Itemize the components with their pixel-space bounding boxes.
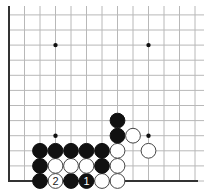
white-stone — [64, 159, 79, 174]
white-stone-circle — [79, 159, 94, 174]
black-stone: 1 — [79, 174, 94, 189]
white-stone-circle — [110, 174, 125, 189]
black-stone-circle — [110, 113, 125, 128]
white-stone: 2 — [48, 174, 63, 189]
black-stone — [95, 159, 110, 174]
black-stone — [110, 128, 125, 143]
white-stone — [110, 159, 125, 174]
star-point-icon — [146, 43, 150, 47]
black-stone-circle — [95, 159, 110, 174]
white-stone-circle — [126, 128, 141, 143]
black-stone — [79, 143, 94, 158]
star-point-icon — [146, 134, 150, 138]
white-stone — [110, 174, 125, 189]
star-point-icon — [53, 134, 57, 138]
black-stone-circle — [33, 174, 48, 189]
white-stone-circle — [110, 159, 125, 174]
white-stone — [126, 128, 141, 143]
black-stone — [110, 113, 125, 128]
move-number-label: 2 — [52, 175, 58, 187]
white-stone-circle — [64, 159, 79, 174]
black-stone — [33, 143, 48, 158]
black-stone-circle — [33, 159, 48, 174]
white-stone-circle — [95, 174, 110, 189]
black-stone — [95, 143, 110, 158]
go-board: 21 — [0, 0, 204, 194]
white-stone-circle — [48, 159, 63, 174]
black-stone — [64, 143, 79, 158]
black-stone-circle — [110, 128, 125, 143]
white-stone — [141, 143, 156, 158]
black-stone-circle — [64, 143, 79, 158]
black-stone — [33, 174, 48, 189]
black-stone — [48, 143, 63, 158]
move-number-label: 1 — [83, 175, 89, 187]
black-stone — [64, 174, 79, 189]
white-stone — [95, 174, 110, 189]
black-stone-circle — [64, 174, 79, 189]
white-stone — [48, 159, 63, 174]
black-stone-circle — [95, 143, 110, 158]
white-stone-circle — [141, 143, 156, 158]
black-stone-circle — [79, 143, 94, 158]
black-stone-circle — [48, 143, 63, 158]
white-stone — [79, 159, 94, 174]
black-stone-circle — [33, 143, 48, 158]
white-stone — [110, 143, 125, 158]
white-stone-circle — [110, 143, 125, 158]
black-stone — [33, 159, 48, 174]
star-point-icon — [53, 43, 57, 47]
